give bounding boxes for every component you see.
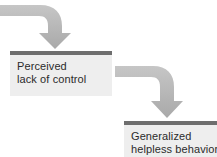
node-label-line-1: Generalized bbox=[131, 130, 217, 143]
arrow-perceived-to-helpless-icon bbox=[115, 66, 183, 118]
node-label-line-1: Perceived bbox=[17, 60, 112, 73]
node-label-line-2: helpless behavior bbox=[131, 143, 217, 156]
node-body: Perceived lack of control bbox=[10, 55, 112, 90]
node-label-line-2: lack of control bbox=[17, 73, 112, 86]
diagram-canvas: Perceived lack of control Generalized he… bbox=[0, 0, 217, 157]
node-body: Generalized helpless behavior bbox=[124, 125, 217, 157]
node-generalized-helpless-behavior: Generalized helpless behavior bbox=[124, 121, 217, 157]
node-perceived-lack-of-control: Perceived lack of control bbox=[10, 51, 112, 96]
arrow-into-perceived-icon bbox=[0, 5, 71, 49]
